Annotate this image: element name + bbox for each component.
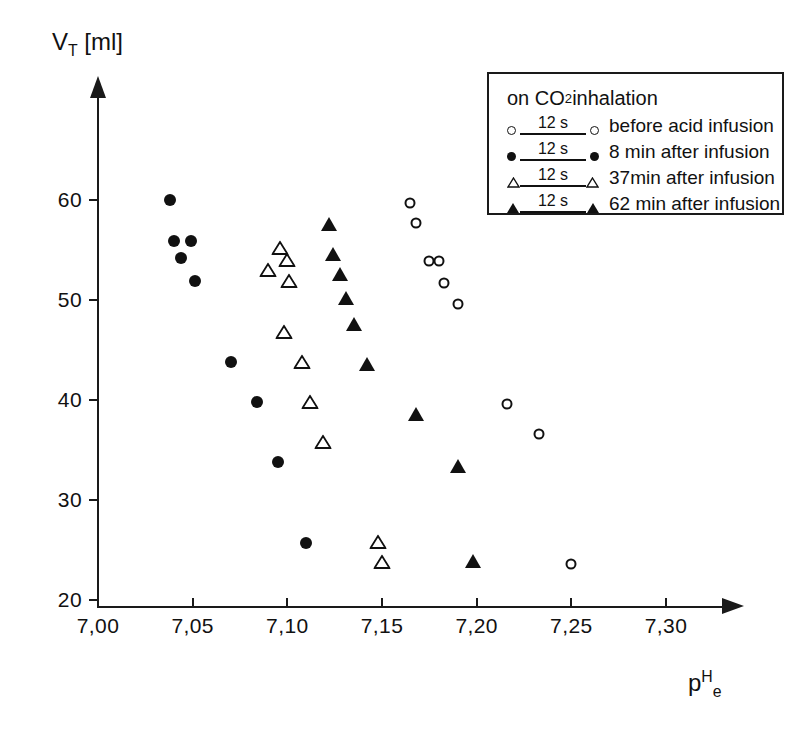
data-point-open-triangle — [302, 395, 319, 410]
data-point-filled-triangle — [450, 459, 466, 473]
x-axis-tick — [286, 598, 288, 607]
legend: on CO2 inhalation 12 sbefore acid infusi… — [487, 72, 784, 215]
data-point-filled-circle — [272, 456, 284, 468]
legend-entry: 12 sbefore acid infusion — [507, 113, 780, 139]
data-point-filled-circle — [175, 252, 187, 264]
data-point-open-triangle — [294, 355, 311, 370]
x-axis-tick-label: 7,05 — [171, 614, 213, 638]
data-point-open-triangle — [279, 253, 296, 268]
x-axis-tick — [665, 598, 667, 607]
legend-duration-label: 12 s — [507, 140, 599, 158]
x-axis-tick — [192, 598, 194, 607]
y-axis-tick-label: 20 — [42, 588, 82, 612]
data-point-open-triangle — [275, 325, 292, 340]
legend-entry: 12 s37min after infusion — [507, 165, 780, 191]
y-axis-tick-label: 60 — [42, 188, 82, 212]
legend-entry: 12 s8 min after infusion — [507, 139, 780, 165]
legend-title-tail: inhalation — [572, 87, 658, 110]
y-axis-tick — [89, 499, 98, 501]
legend-duration-label: 12 s — [507, 114, 599, 132]
data-point-open-triangle — [315, 435, 332, 450]
legend-entry-label: before acid infusion — [609, 115, 774, 137]
x-axis-tick — [570, 598, 572, 607]
legend-duration-bar — [520, 185, 586, 187]
data-point-open-triangle — [281, 274, 298, 289]
x-axis-title: pHe — [688, 668, 722, 701]
legend-duration-label: 12 s — [507, 166, 599, 184]
y-axis-tick — [89, 199, 98, 201]
legend-duration-bar — [520, 159, 586, 161]
x-axis-tick-label: 7,00 — [77, 614, 119, 638]
x-axis-tick — [476, 598, 478, 607]
legend-duration-bar — [520, 133, 586, 135]
data-point-filled-triangle — [332, 267, 348, 281]
y-axis-line — [97, 95, 99, 608]
y-axis-tick-label: 40 — [42, 388, 82, 412]
x-axis-tick-label: 7,25 — [550, 614, 592, 638]
x-axis-tick-label: 7,20 — [455, 614, 497, 638]
y-axis-tick — [89, 399, 98, 401]
data-point-open-circle — [566, 559, 577, 570]
legend-duration-label: 12 s — [507, 192, 599, 210]
data-point-open-triangle — [370, 535, 387, 550]
data-point-open-circle — [411, 218, 422, 229]
x-axis-tick-label: 7,10 — [266, 614, 308, 638]
data-point-filled-triangle — [325, 247, 341, 261]
x-axis-tick-label: 7,15 — [361, 614, 403, 638]
data-point-filled-triangle — [359, 357, 375, 371]
legend-symbol-group: 12 s — [507, 118, 599, 135]
data-point-filled-triangle — [321, 217, 337, 231]
data-point-open-circle — [501, 399, 512, 410]
legend-title-subscript: 2 — [565, 91, 572, 106]
y-axis-title-unit: [ml] — [78, 28, 123, 55]
y-axis-arrow-icon — [90, 76, 106, 98]
data-point-filled-circle — [164, 194, 176, 206]
x-axis-tick-label: 7,30 — [645, 614, 687, 638]
x-axis-title-subscript: e — [713, 683, 722, 700]
x-axis-arrow-icon — [722, 598, 744, 614]
data-point-open-circle — [405, 198, 416, 209]
data-point-filled-triangle — [465, 554, 481, 568]
legend-symbol-group: 12 s — [507, 144, 599, 161]
x-axis-tick — [381, 598, 383, 607]
y-axis-title-subscript: T — [68, 42, 78, 59]
data-point-open-circle — [439, 278, 450, 289]
x-axis-title-superscript: H — [701, 668, 712, 685]
y-axis-tick — [89, 599, 98, 601]
data-point-filled-triangle — [338, 291, 354, 305]
data-point-filled-circle — [168, 235, 180, 247]
y-axis-tick-label: 30 — [42, 488, 82, 512]
data-point-filled-circle — [185, 235, 197, 247]
y-axis-tick-label: 50 — [42, 288, 82, 312]
legend-entry: 12 s62 min after infusion — [507, 191, 780, 217]
data-point-open-triangle — [260, 263, 277, 278]
legend-duration-bar — [520, 211, 586, 213]
scatter-plot-figure: 7,007,057,107,157,207,257,30 2030405060 … — [0, 0, 803, 733]
data-point-open-circle — [534, 429, 545, 440]
legend-entry-label: 62 min after infusion — [609, 193, 780, 215]
x-axis-title-main: p — [688, 669, 701, 696]
legend-title-main: on CO — [507, 87, 565, 110]
y-axis-tick — [89, 299, 98, 301]
data-point-filled-triangle — [408, 407, 424, 421]
data-point-open-circle — [433, 256, 444, 267]
data-point-filled-circle — [189, 275, 201, 287]
data-point-filled-circle — [300, 537, 312, 549]
legend-symbol-group: 12 s — [507, 195, 599, 213]
legend-entry-label: 37min after infusion — [609, 167, 775, 189]
y-axis-title-main: V — [52, 28, 68, 55]
data-point-filled-circle — [225, 356, 237, 368]
data-point-open-triangle — [374, 555, 391, 570]
legend-symbol-group: 12 s — [507, 169, 599, 188]
y-axis-title: VT [ml] — [52, 28, 123, 60]
legend-entry-label: 8 min after infusion — [609, 141, 770, 163]
data-point-filled-triangle — [346, 317, 362, 331]
legend-rows: 12 sbefore acid infusion12 s8 min after … — [507, 113, 780, 217]
data-point-open-circle — [452, 299, 463, 310]
legend-title: on CO2 inhalation — [507, 83, 780, 113]
data-point-filled-circle — [251, 396, 263, 408]
